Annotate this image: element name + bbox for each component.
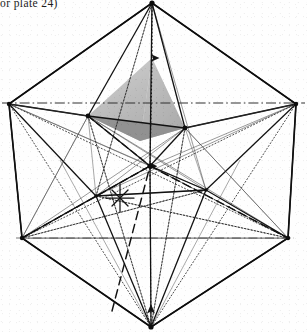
polyhedron-figure xyxy=(0,0,307,332)
vertex-inner-right-up xyxy=(183,126,188,131)
dashed-edges xyxy=(22,3,288,327)
figure-page: or plate 24) xyxy=(0,0,307,332)
vertex-right-lower xyxy=(286,236,290,240)
vertex-inner-center xyxy=(147,163,152,168)
vertex-right-upper xyxy=(294,102,298,106)
vertex-top-apex xyxy=(149,0,154,5)
vertex-left-upper xyxy=(7,102,11,106)
thin-construction-lines xyxy=(9,3,296,327)
caption-text: or plate 24) xyxy=(0,0,58,9)
vertex-inner-left-low xyxy=(94,194,98,198)
vertex-left-lower xyxy=(20,236,24,240)
inner-fan-lines xyxy=(9,104,296,327)
vertex-bottom-apex xyxy=(148,324,153,329)
vertex-inner-left-up xyxy=(86,114,91,119)
vertex-inner-right-low xyxy=(204,188,208,192)
